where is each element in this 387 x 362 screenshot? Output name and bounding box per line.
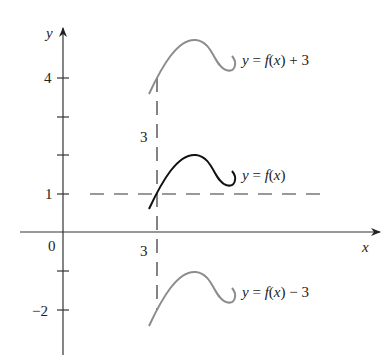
curve-f (149, 155, 235, 209)
label-f: y = f(x) (240, 167, 285, 184)
y-axis-label: y (44, 25, 53, 41)
curve-f-plus-3 (149, 40, 235, 94)
origin-label: 0 (48, 238, 56, 254)
label-f-plus-3: y = f(x) + 3 (240, 52, 309, 69)
y-tick-label-1: 1 (45, 186, 53, 202)
label-f-minus-3: y = f(x) − 3 (240, 284, 309, 301)
shift-diagram: y x 4 1 −2 0 3 3 y = f(x) + 3 y = f(x) y… (0, 0, 387, 362)
curve-f-minus-3 (149, 272, 235, 326)
x-axis-label: x (361, 239, 369, 255)
x-tick-label-3: 3 (140, 243, 148, 259)
shift-annotation: 3 (140, 129, 148, 145)
y-tick-label-neg2: −2 (32, 303, 48, 319)
y-tick-label-4: 4 (44, 70, 52, 86)
